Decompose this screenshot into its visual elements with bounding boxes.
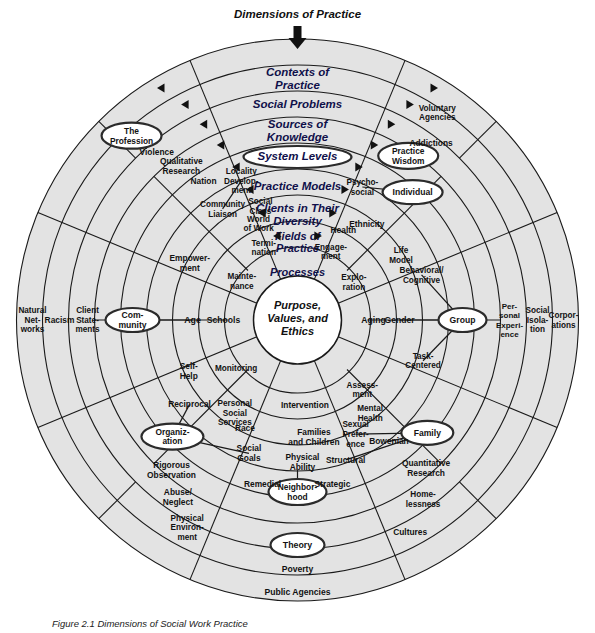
node-label-community-liaison: Liaison (208, 210, 237, 219)
node-label-aging: Aging (361, 315, 385, 325)
node-label-voluntary-agencies: Voluntary (419, 104, 457, 113)
node-label-natural-networks: Natural (18, 306, 46, 315)
node-client-statements: ClientState-ments (75, 306, 100, 334)
node-label-racism: Racism (45, 315, 75, 325)
node-label-social-class: Social (248, 197, 272, 206)
figure-container: Contexts ofPracticeSocial ProblemsSource… (0, 0, 595, 633)
node-label-structural: Structural (326, 455, 366, 465)
node-label-qualitative-research: Qualitative (160, 156, 203, 166)
node-label-psychosocial: Psycho- (346, 178, 378, 187)
node-label-abuse-neglect: Abuse/ (164, 487, 193, 497)
node-label-qualitative-research: Research (162, 166, 200, 176)
node-label-personal-social-services: Personal (218, 399, 253, 408)
node-label-social-isolation: Social (525, 306, 549, 315)
node-label-client-statements: Client (76, 306, 99, 315)
node-label-bowenian: Bowenian (369, 436, 409, 446)
node-label-physical-environment: ment (177, 533, 197, 542)
node-strategic: Strategic (315, 479, 351, 489)
core-line: Ethics (281, 325, 314, 337)
node-label-mental-health: Health (358, 414, 383, 423)
node-label-locality-development: ment (232, 186, 252, 195)
node-label-community: munity (118, 320, 146, 330)
node-rigorous-observation: RigorousObservation (147, 460, 196, 480)
node-label-assessment: Assess- (347, 381, 379, 390)
node-label-community: Com- (122, 310, 144, 320)
node-label-personal-experience: ence (500, 330, 519, 339)
node-label-social-isolation: Isola- (527, 316, 549, 325)
node-addictions: Addictions (409, 138, 453, 148)
node-social-goals: SocialGoals (237, 443, 262, 463)
node-race: Race (235, 423, 255, 433)
node-label-intervention: Intervention (281, 400, 329, 410)
node-label-self-help: Help (180, 371, 198, 381)
node-label-life-model: Life (394, 246, 409, 255)
node-label-locality-development: Locality (226, 167, 257, 176)
node-family[interactable]: Family (401, 421, 453, 445)
node-label-personal-social-services: Social (223, 409, 247, 418)
node-label-world-of-work: World (247, 215, 270, 224)
node-label-maintenance: Mainte- (227, 272, 256, 281)
node-label-strategic: Strategic (315, 479, 351, 489)
node-label-empowerment: ment (180, 263, 200, 273)
node-the-profession[interactable]: TheProfession (102, 123, 162, 149)
node-individual[interactable]: Individual (383, 180, 443, 204)
node-label-quantitative-research: Quantitative (402, 458, 451, 468)
node-label-task-centered: Task- (413, 352, 434, 361)
node-label-age: Age (184, 315, 201, 325)
node-label-homelessness: Home- (410, 490, 436, 499)
node-monitoring: Monitoring (215, 364, 257, 373)
node-label-abuse-neglect: Neglect (163, 497, 193, 507)
node-label-cultures: Cultures (393, 527, 427, 537)
node-label-physical-environment: Physical (171, 514, 204, 523)
node-label-termination: nation (251, 248, 276, 257)
node-label-social-isolation: tion (530, 325, 545, 334)
node-label-group: Group (450, 315, 476, 325)
radial-diagram: Contexts ofPracticeSocial ProblemsSource… (0, 0, 595, 633)
node-label-families-and-children: and Children (288, 437, 339, 447)
node-label-rigorous-observation: Observation (147, 470, 196, 480)
node-group[interactable]: Group (439, 308, 487, 332)
node-label-practice-wisdom: Wisdom (392, 156, 425, 166)
node-label-sexual-preference: Prefer- (342, 430, 369, 439)
band-label-contexts: Contexts of (266, 66, 330, 78)
node-label-personal-experience: Per- (502, 302, 518, 311)
node-label-personal-experience: Experi- (496, 321, 523, 330)
node-psychosocial: Psycho-social (346, 178, 378, 197)
node-organization[interactable]: Organiz-ation (141, 424, 203, 450)
node-label-family: Family (414, 428, 441, 438)
node-label-social-goals: Social (237, 443, 262, 453)
node-label-exploration: ration (342, 283, 365, 292)
node-label-schools: Schools (207, 315, 241, 325)
node-label-locality-development: Develop- (224, 177, 259, 186)
node-schools: Schools (207, 315, 241, 325)
node-aging: Aging (361, 315, 385, 325)
node-termination: Termi-nation (251, 239, 276, 258)
node-mental-health: MentalHealth (357, 404, 383, 423)
node-nation: Nation (191, 176, 217, 186)
node-quantitative-research: QuantitativeResearch (402, 458, 451, 478)
node-label-client-statements: State- (76, 316, 99, 325)
node-label-empowerment: Empower- (170, 253, 211, 263)
band-label-fields: Practice (276, 242, 319, 254)
node-label-theory: Theory (283, 540, 312, 550)
node-label-behavioral-cognitive: Cognitive (403, 276, 441, 285)
node-label-corporations: Corpor- (548, 311, 578, 320)
node-label-psychosocial: social (351, 188, 374, 197)
node-label-public-agencies: Public Agencies (264, 587, 330, 597)
core-line: Purpose, (274, 299, 321, 311)
node-label-monitoring: Monitoring (215, 364, 257, 373)
node-label-homelessness: lessness (406, 500, 441, 509)
node-label-natural-networks: works (20, 325, 45, 334)
node-label-neighborhood: hood (287, 492, 307, 502)
node-label-organization: ation (162, 436, 182, 446)
node-racism: Racism (45, 315, 75, 325)
node-intervention: Intervention (281, 400, 329, 410)
node-label-termination: Termi- (251, 239, 276, 248)
node-label-physical-environment: Environ- (171, 523, 204, 532)
node-label-assessment: ment (353, 390, 373, 399)
node-theory[interactable]: Theory (271, 533, 325, 557)
node-label-physical-ability: Ability (290, 462, 316, 472)
node-label-social-goals: Goals (237, 453, 261, 463)
node-behavioral-cognitive: Behavioral/Cognitive (399, 266, 444, 285)
node-community[interactable]: Com-munity (106, 308, 160, 332)
